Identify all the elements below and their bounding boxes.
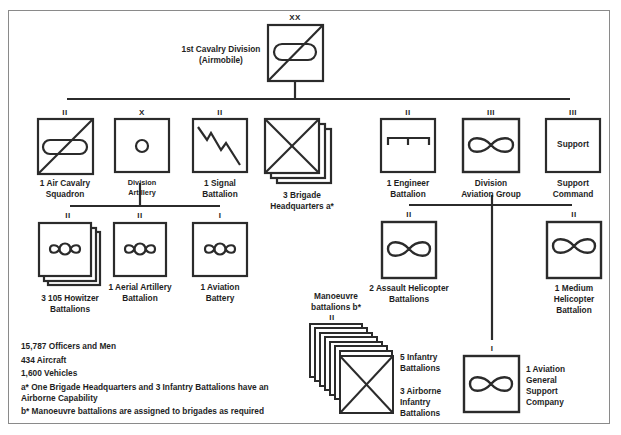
label-line: Manoeuvre: [306, 291, 366, 302]
aerial-artillery-symbol: [114, 223, 166, 276]
label-division-artillery: Division Artillery: [110, 178, 174, 198]
label-support-command: Support Command: [540, 178, 606, 200]
label-line: Artillery: [110, 188, 174, 198]
label-line: Battalions: [400, 408, 470, 419]
label-aviation-general-support: 1 Aviation General Support Company: [526, 364, 596, 408]
label-line: 5 Infantry: [400, 352, 470, 363]
aviation-battery-symbol: [193, 223, 247, 276]
label-line: Battalions: [364, 294, 454, 305]
label-airborne-infantry: 3 Airborne Infantry Battalions: [400, 386, 470, 419]
root-label-line2: (Airmobile): [176, 55, 266, 66]
label-line: Battalion: [100, 293, 180, 304]
division-artillery-symbol: [115, 119, 169, 172]
label-line: General: [526, 375, 596, 386]
echelon-aerial-art: II: [130, 211, 150, 220]
echelon-signal: II: [210, 108, 230, 117]
label-line: Command: [540, 189, 606, 200]
note-personnel: 15,787 Officers and Men: [21, 341, 269, 352]
label-line: 1 Signal: [186, 178, 254, 189]
label-line: Battalion: [540, 305, 608, 316]
label-line: Support: [526, 386, 596, 397]
echelon-support: III: [563, 108, 583, 117]
notes-block: 15,787 Officers and Men 434 Aircraft 1,6…: [21, 341, 269, 420]
label-line: Aviation Group: [450, 189, 532, 200]
label-line: 3 Brigade: [262, 190, 342, 201]
note-footnote-a-cont: Airborne Capability: [21, 393, 269, 404]
note-aircraft: 434 Aircraft: [21, 355, 269, 366]
brigade-hq-symbol: [265, 119, 331, 183]
label-signal-battalion: 1 Signal Battalion: [186, 178, 254, 200]
note-footnote-b: b* Manoeuvre battalions are assigned to …: [21, 406, 269, 417]
label-aerial-artillery: 1 Aerial Artillery Battalion: [100, 282, 180, 304]
label-line: 1 Aviation: [526, 364, 596, 375]
label-line: Battalion: [372, 189, 444, 200]
signal-battalion-symbol: [193, 119, 247, 172]
echelon-aviation-group: III: [481, 108, 501, 117]
label-infantry-battalions: 5 Infantry Battalions: [400, 352, 470, 374]
echelon-air-cav: II: [55, 108, 75, 117]
division-aviation-group-symbol: [463, 119, 519, 172]
note-footnote-a: a* One Brigade Headquarters and 3 Infant…: [21, 382, 269, 393]
label-line: 1 Air Cavalry: [25, 178, 105, 189]
label-line: 2 Assault Helicopter: [364, 283, 454, 294]
echelon-div-art: X: [132, 108, 152, 117]
label-line: 3 Airborne: [400, 386, 470, 397]
engineer-battalion-symbol: [381, 119, 435, 172]
label-line: Battery: [185, 293, 255, 304]
label-line: Infantry: [400, 397, 470, 408]
echelon-engineer: II: [398, 108, 418, 117]
echelon-manoeuvre: II: [322, 313, 342, 322]
howitzer-battalions-symbol: [39, 223, 100, 285]
root-label-line1: 1st Cavalry Division: [176, 44, 266, 55]
medium-helicopter-symbol: [547, 222, 601, 278]
label-line: Headquarters a*: [262, 201, 342, 212]
label-brigade-hq: 3 Brigade Headquarters a*: [262, 190, 342, 212]
label-line: Battalion: [186, 189, 254, 200]
support-symbol-text: Support: [546, 139, 600, 150]
label-line: Squadron: [25, 189, 105, 200]
label-manoeuvre-header: Manoeuvre battalions b*: [306, 291, 366, 313]
root-label: 1st Cavalry Division (Airmobile): [176, 44, 266, 66]
label-line: Helicopter: [540, 294, 608, 305]
label-air-cav-squadron: 1 Air Cavalry Squadron: [25, 178, 105, 200]
label-medium-helicopter: 1 Medium Helicopter Battalion: [540, 283, 608, 316]
label-line: Battalions: [28, 304, 112, 315]
label-aviation-battery: 1 Aviation Battery: [185, 282, 255, 304]
echelon-aviation-gs: I: [482, 344, 502, 353]
label-assault-helicopter: 2 Assault Helicopter Battalions: [364, 283, 454, 305]
label-line: Division: [110, 178, 174, 188]
aviation-general-support-symbol: [464, 356, 519, 412]
air-cavalry-squadron-symbol: [38, 119, 93, 174]
label-line: Battalions: [400, 363, 470, 374]
root-unit-symbol: [268, 25, 323, 81]
label-line: 1 Medium: [540, 283, 608, 294]
label-line: Company: [526, 397, 596, 408]
echelon-howitzer: II: [58, 211, 78, 220]
label-line: 1 Engineer: [372, 178, 444, 189]
label-line: battalions b*: [306, 302, 366, 313]
echelon-aviation-battery: I: [210, 211, 230, 220]
echelon-root: XX: [283, 13, 307, 22]
label-division-aviation-group: Division Aviation Group: [450, 178, 532, 200]
label-engineer-battalion: 1 Engineer Battalion: [372, 178, 444, 200]
label-line: Support: [540, 178, 606, 189]
echelon-assault-heli: II: [399, 210, 419, 219]
note-vehicles: 1,600 Vehicles: [21, 368, 269, 379]
assault-helicopter-symbol: [382, 222, 436, 278]
label-line: 1 Aviation: [185, 282, 255, 293]
label-line: Division: [450, 178, 532, 189]
echelon-medium-heli: II: [564, 210, 584, 219]
label-line: 1 Aerial Artillery: [100, 282, 180, 293]
